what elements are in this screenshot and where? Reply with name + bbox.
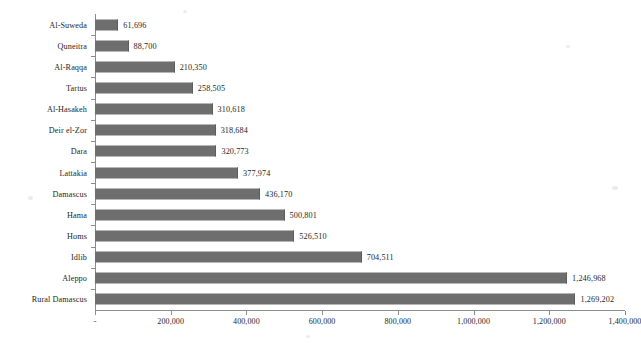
y-axis-tick xyxy=(91,99,95,100)
bar-and-label: 1,269,202 xyxy=(95,294,614,305)
category-label: Quneitra xyxy=(58,41,87,50)
category-label: Tartus xyxy=(66,83,87,92)
bar-row: Idlib704,511 xyxy=(0,247,639,268)
category-label: Homs xyxy=(67,231,87,240)
bar-and-label: 310,618 xyxy=(95,104,245,115)
category-label: Al-Hasakeh xyxy=(47,105,87,114)
bar xyxy=(95,125,216,136)
bar-and-label: 318,684 xyxy=(95,125,248,136)
bar-value-label: 1,269,202 xyxy=(580,295,614,304)
bar-value-label: 318,684 xyxy=(221,126,248,135)
bar-row: Aleppo1,246,968 xyxy=(0,268,639,289)
y-axis-tick xyxy=(91,56,95,57)
category-label: Lattakia xyxy=(59,168,87,177)
bar xyxy=(95,104,213,115)
bar-row: Rural Damascus1,269,202 xyxy=(0,289,639,310)
x-axis-tick xyxy=(322,311,323,315)
bar-value-label: 88,700 xyxy=(134,41,157,50)
bar-value-label: 210,350 xyxy=(180,62,207,71)
bar-and-label: 1,246,968 xyxy=(95,273,606,284)
category-label: Hama xyxy=(67,210,87,219)
bar-and-label: 526,510 xyxy=(95,230,327,241)
y-axis-tick xyxy=(91,268,95,269)
bar xyxy=(95,230,294,241)
category-label: Al-Raqqa xyxy=(54,62,87,71)
x-axis-tick xyxy=(549,311,550,315)
y-axis-tick xyxy=(91,35,95,36)
bar-value-label: 320,773 xyxy=(221,147,248,156)
bar-value-label: 1,246,968 xyxy=(572,274,606,283)
bar xyxy=(95,188,260,199)
bar-rows: Al-Suweda61,696Quneitra88,700Al-Raqqa210… xyxy=(0,14,639,310)
bar-and-label: 210,350 xyxy=(95,61,207,72)
bar xyxy=(95,167,238,178)
category-label: Idlib xyxy=(71,253,87,262)
bar-row: Deir el-Zor318,684 xyxy=(0,120,639,141)
category-label: Aleppo xyxy=(62,274,87,283)
bar xyxy=(95,40,129,51)
y-axis-tick xyxy=(91,225,95,226)
x-axis-tick-labels: -200,000400,000600,000800,0001,000,0001,… xyxy=(0,317,639,331)
bar-row: Hama500,801 xyxy=(0,204,639,225)
x-axis-tick-label: 1,400,000 xyxy=(609,317,641,326)
bar-value-label: 310,618 xyxy=(218,105,245,114)
bar-value-label: 258,505 xyxy=(198,83,225,92)
category-label: Deir el-Zor xyxy=(49,126,87,135)
y-axis-tick xyxy=(91,204,95,205)
x-axis-tick-label: 1,000,000 xyxy=(457,317,490,326)
y-axis-tick xyxy=(91,247,95,248)
bar-and-label: 61,696 xyxy=(95,19,146,30)
y-axis-tick xyxy=(91,120,95,121)
category-label: Rural Damascus xyxy=(32,295,87,304)
x-axis-tick-label: 800,000 xyxy=(385,317,412,326)
bar-and-label: 500,801 xyxy=(95,209,317,220)
bar-value-label: 61,696 xyxy=(123,20,146,29)
bar xyxy=(95,19,118,30)
bar-row: Lattakia377,974 xyxy=(0,162,639,183)
bar xyxy=(95,252,362,263)
category-label: Dara xyxy=(71,147,87,156)
bar xyxy=(95,61,175,72)
bar xyxy=(95,146,216,157)
x-axis-tick-label: - xyxy=(93,316,96,326)
y-axis-tick xyxy=(91,77,95,78)
y-axis-tick xyxy=(91,183,95,184)
x-axis-tick-label: 1,200,000 xyxy=(533,317,566,326)
x-axis-tick xyxy=(625,311,626,315)
bar xyxy=(95,273,567,284)
x-axis-tick xyxy=(95,311,96,315)
x-axis-tick-label: 600,000 xyxy=(309,317,336,326)
bar-value-label: 377,974 xyxy=(243,168,270,177)
y-axis-tick xyxy=(91,162,95,163)
bar-value-label: 526,510 xyxy=(299,231,326,240)
x-axis-tick xyxy=(246,311,247,315)
bar-row: Quneitra88,700 xyxy=(0,35,639,56)
bar-value-label: 436,170 xyxy=(265,189,292,198)
x-axis-tick xyxy=(171,311,172,315)
y-axis-tick xyxy=(91,141,95,142)
bar xyxy=(95,294,575,305)
bar xyxy=(95,209,285,220)
bar-and-label: 320,773 xyxy=(95,146,249,157)
x-axis-tick-label: 400,000 xyxy=(233,317,260,326)
bar-and-label: 704,511 xyxy=(95,252,394,263)
bar-value-label: 704,511 xyxy=(367,253,394,262)
bar-row: Dara320,773 xyxy=(0,141,639,162)
bar xyxy=(95,82,193,93)
category-axis-line xyxy=(95,310,625,311)
y-axis-tick xyxy=(91,289,95,290)
bar-and-label: 377,974 xyxy=(95,167,270,178)
bar-and-label: 88,700 xyxy=(95,40,157,51)
bar-and-label: 258,505 xyxy=(95,82,225,93)
bar-row: Tartus258,505 xyxy=(0,77,639,98)
bar-row: Al-Hasakeh310,618 xyxy=(0,99,639,120)
bar-row: Homs526,510 xyxy=(0,225,639,246)
x-axis-tick xyxy=(398,311,399,315)
bar-row: Damascus436,170 xyxy=(0,183,639,204)
x-axis-tick xyxy=(474,311,475,315)
category-label: Al-Suweda xyxy=(49,20,87,29)
x-axis-tick-label: 200,000 xyxy=(157,317,184,326)
bar-and-label: 436,170 xyxy=(95,188,292,199)
bar-row: Al-Raqqa210,350 xyxy=(0,56,639,77)
